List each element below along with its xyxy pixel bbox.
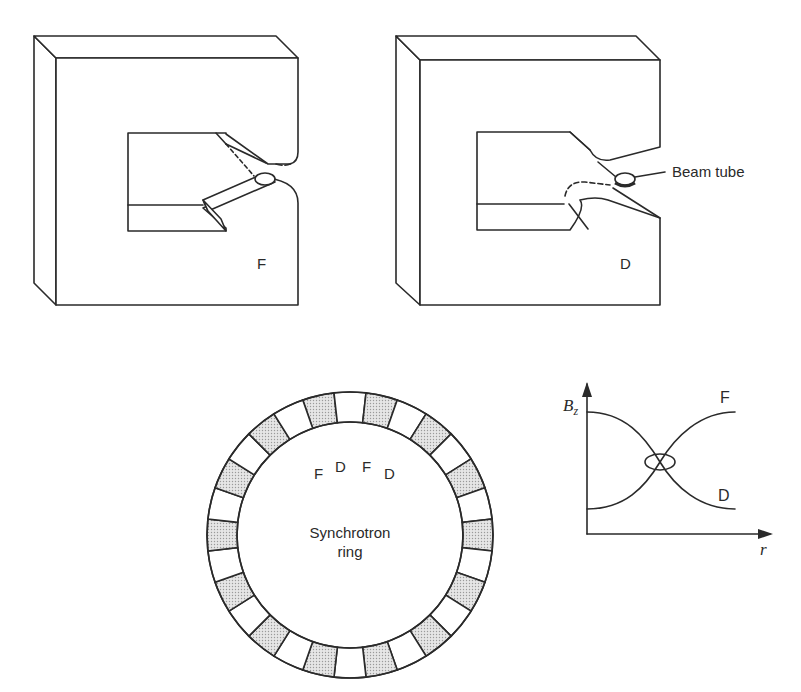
ring-segment-white xyxy=(334,647,366,678)
ring-segment-label-f2: F xyxy=(362,458,371,475)
magnet-d-side-face xyxy=(396,36,420,305)
x-axis-arrow-icon xyxy=(758,529,773,539)
magnet-d-pole-line xyxy=(598,162,616,177)
ring-segment-label-d2: D xyxy=(384,465,395,482)
magnet-f-label: F xyxy=(257,255,266,272)
ring-segment-label-f1: F xyxy=(314,465,323,482)
synchrotron-ring: F D F D Synchrotron ring xyxy=(207,392,493,678)
magnet-f-beam-tube xyxy=(255,173,275,185)
ring-title-line2: ring xyxy=(337,543,362,560)
synchrotron-figure: F Beam tube D F D F D Synchrotron ring B… xyxy=(0,0,801,692)
beam-tube-callout: Beam tube xyxy=(672,163,745,180)
magnet-d-top-face xyxy=(396,36,660,60)
magnet-f-pole-edge xyxy=(216,133,226,144)
ring-segment-white xyxy=(334,392,366,423)
ring-segment-shaded xyxy=(207,519,238,551)
magnet-d-hidden-curve xyxy=(565,182,610,196)
ring-title-line1: Synchrotron xyxy=(310,524,391,541)
magnet-f-top-face xyxy=(34,36,298,58)
ring-segment-shaded xyxy=(462,519,493,551)
ring-segment-label-d1: D xyxy=(335,458,346,475)
y-axis-label: Bz xyxy=(563,396,578,418)
x-axis-label: r xyxy=(760,540,767,559)
curve-f xyxy=(587,412,735,509)
curve-d-label: D xyxy=(718,487,730,504)
beam-tube-leader-line xyxy=(635,172,665,177)
defocusing-magnet: Beam tube D xyxy=(396,36,745,305)
magnet-f-side-face xyxy=(34,36,56,305)
field-gradient-plot: Bz r F D xyxy=(563,382,773,559)
curve-f-label: F xyxy=(720,389,730,406)
y-axis-arrow-icon xyxy=(582,382,592,397)
magnet-d-label: D xyxy=(620,255,631,272)
focusing-magnet: F xyxy=(34,36,298,305)
